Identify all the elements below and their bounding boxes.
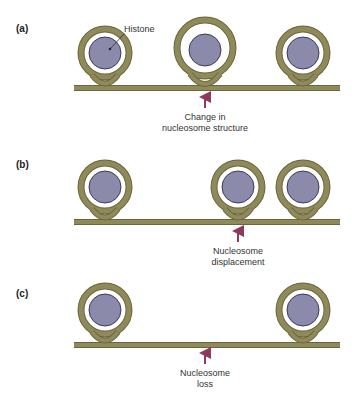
histone-core: [189, 34, 221, 66]
caption-line-2: loss: [197, 379, 214, 389]
caption-line-1: Change in: [184, 112, 225, 122]
histone-core: [89, 171, 121, 203]
nucleosome: [81, 286, 129, 341]
panel-a: (a) Histone: [16, 20, 340, 133]
nucleosome: [81, 163, 129, 218]
panel-label-b: (b): [16, 159, 29, 170]
nucleosome: [279, 286, 327, 341]
panel-c: (c) Nucleosome loss: [16, 286, 340, 389]
histone-core: [89, 37, 121, 69]
panel-label-a: (a): [16, 23, 28, 34]
caption-line-1: Nucleosome: [213, 246, 263, 256]
nucleosome-diagram: (a) Histone: [0, 0, 360, 400]
histone-core: [89, 294, 121, 326]
panel-b: (b) Nu: [16, 159, 340, 267]
histone-core: [287, 294, 319, 326]
nucleosome: [279, 29, 327, 84]
histone-core: [287, 37, 319, 69]
nucleosome: [279, 163, 327, 218]
nucleosome-displaced: [214, 163, 262, 218]
caption-line-2: displacement: [211, 257, 265, 267]
nucleosome-altered: [177, 20, 233, 84]
caption-line-1: Nucleosome: [180, 368, 230, 378]
histone-core: [222, 171, 254, 203]
nucleosome: [81, 29, 129, 84]
panel-label-c: (c): [16, 288, 28, 299]
caption-line-2: nucleosome structure: [162, 123, 248, 133]
histone-callout: Histone: [124, 24, 155, 34]
histone-core: [287, 171, 319, 203]
